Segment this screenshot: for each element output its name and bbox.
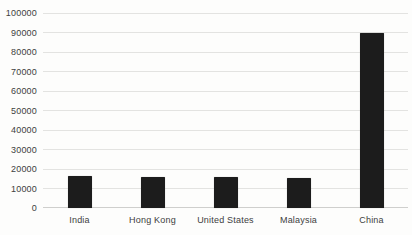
bar-column-china	[335, 13, 408, 208]
y-tick-label-20000: 20000	[0, 164, 37, 174]
bar-column-india	[43, 13, 116, 208]
bar-malaysia	[287, 178, 311, 208]
bar-india	[68, 176, 92, 208]
y-tick-label-80000: 80000	[0, 47, 37, 57]
y-tick-label-10000: 10000	[0, 184, 37, 194]
bar-column-hong-kong	[116, 13, 189, 208]
x-tick-label-united-states: United States	[189, 215, 262, 226]
bar-series	[43, 13, 408, 208]
y-tick-label-40000: 40000	[0, 125, 37, 135]
bar-column-malaysia	[262, 13, 335, 208]
x-tick-label-china: China	[335, 215, 408, 226]
bar-column-united-states	[189, 13, 262, 208]
x-tick-label-hong-kong: Hong Kong	[116, 215, 189, 226]
y-tick-label-30000: 30000	[0, 145, 37, 155]
x-tick-label-india: India	[43, 215, 116, 226]
y-tick-label-50000: 50000	[0, 106, 37, 116]
bar-china	[360, 33, 384, 208]
x-tick-label-malaysia: Malaysia	[262, 215, 335, 226]
bar-united-states	[214, 177, 238, 208]
y-tick-label-90000: 90000	[0, 28, 37, 38]
y-tick-label-70000: 70000	[0, 67, 37, 77]
bar-hong-kong	[141, 177, 165, 208]
y-tick-label-100000: 100000	[0, 8, 37, 18]
bar-chart: 0100002000030000400005000060000700008000…	[0, 0, 412, 235]
y-tick-label-0: 0	[0, 203, 37, 213]
plot-area	[43, 13, 408, 208]
y-tick-label-60000: 60000	[0, 86, 37, 96]
